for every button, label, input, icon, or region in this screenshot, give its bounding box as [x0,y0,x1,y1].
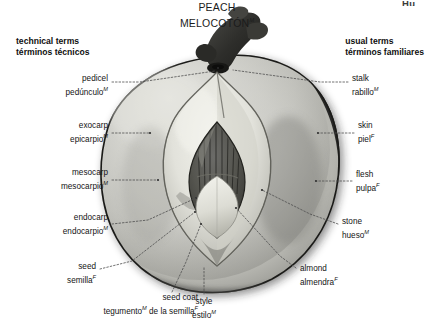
label-endocarp: endocarp endocarpioM [4,213,108,237]
column-header-technical-es: términos técnicos [16,47,90,58]
label-stone: stone huesoM [342,217,430,241]
label-endocarp-en: endocarp [4,213,108,223]
leader-seed-coat [172,224,201,292]
peach-body [70,20,352,300]
label-seed: seed semillaF [20,262,96,286]
label-seed-en: seed [20,262,96,272]
label-exocarp: exocarp epicarpioM [8,121,108,145]
label-stalk-en: stalk [352,74,432,84]
leader-stone [262,190,338,224]
label-almond: almond almendraF [300,264,396,288]
diagram-title: PEACH MELOCOTÓNM [0,1,434,29]
label-mesocarp-en: mesocarp [4,168,108,178]
clipped-corner-text: Hu [402,0,428,6]
column-header-usual-en: usual terms [345,36,424,47]
title-english: PEACH [0,1,434,14]
label-seed-coat-es: tegumentoM de la semillaF [28,303,198,317]
leader-pedicel [112,71,215,82]
leader-stalk [233,70,348,82]
label-seed-es: semillaF [20,272,96,286]
label-flesh-es: pulpaF [356,180,432,194]
peach-stone [189,122,245,238]
label-flesh: flesh pulpaF [356,170,432,194]
column-header-technical-en: technical terms [16,36,90,47]
label-mesocarp-es: mesocarpioM [4,178,108,192]
label-pedicel-es: pedúnculoM [18,84,108,98]
title-spanish: MELOCOTÓNM [0,14,434,29]
label-stalk-es: rabilloM [352,84,432,98]
label-exocarp-en: exocarp [8,121,108,131]
label-mesocarp: mesocarp mesocarpioM [4,168,108,192]
label-endocarp-es: endocarpioM [4,223,108,237]
label-pedicel: pedicel pedúnculoM [18,74,108,98]
diagram-canvas: PEACH MELOCOTÓNM Hu technical terms térm… [0,0,434,336]
label-skin-es: pielF [358,131,432,145]
label-exocarp-es: epicarpioM [8,131,108,145]
label-stone-es: huesoM [342,227,430,241]
column-header-technical: technical terms términos técnicos [16,36,90,58]
column-header-usual-es: términos familiares [345,47,424,58]
label-pedicel-en: pedicel [18,74,108,84]
leader-seed [100,212,195,269]
label-seed-coat: seed coat tegumentoM de la semillaF [28,293,198,317]
label-style: style estiloM [174,297,234,321]
leader-endocarp [112,198,196,224]
anchor-dots [149,67,319,225]
label-style-es: estiloM [174,307,234,321]
peach-kernel [196,174,238,238]
peach-cavity [163,72,270,266]
label-stone-en: stone [342,217,430,227]
label-flesh-en: flesh [356,170,432,180]
label-almond-es: almendraF [300,274,396,288]
column-header-usual: usual terms términos familiares [345,36,424,58]
leader-almond [236,208,296,268]
label-seed-coat-en: seed coat [28,293,198,303]
label-skin-en: skin [358,121,432,131]
label-stalk: stalk rabilloM [352,74,432,98]
label-almond-en: almond [300,264,396,274]
label-skin: skin pielF [358,121,432,145]
label-style-en: style [174,297,234,307]
